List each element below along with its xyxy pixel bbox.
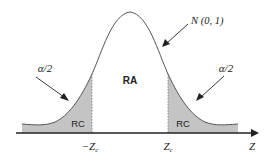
axis-label: Z — [249, 140, 256, 152]
curve-label: N (0, 1) — [190, 15, 224, 27]
right-rejection-region-label: RC — [176, 118, 190, 129]
normal-distribution-diagram: N (0, 1) RA RC RC α/2 α/2 −Zc Zc Z — [0, 0, 267, 161]
curve-label-arrow — [162, 24, 188, 47]
bell-curve — [22, 12, 238, 125]
left-rejection-region-label: RC — [71, 118, 85, 129]
left-alpha-arrow — [36, 77, 69, 101]
right-critical-value-label: Zc — [163, 140, 173, 154]
axis-arrowhead-icon — [251, 129, 259, 137]
acceptance-region-label: RA — [123, 75, 137, 86]
left-critical-value-label: −Zc — [82, 140, 100, 154]
right-alpha-arrow — [196, 76, 224, 101]
left-alpha-label: α/2 — [38, 62, 53, 74]
right-alpha-label: α/2 — [219, 62, 234, 74]
